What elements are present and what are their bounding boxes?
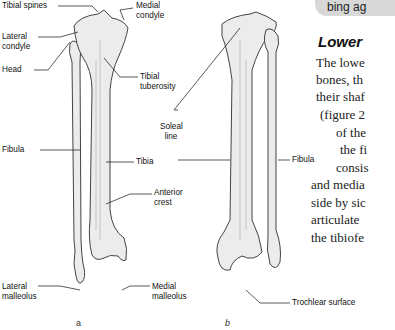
body-line: the fi bbox=[340, 143, 367, 157]
label-tibial-spines: Tibial spines bbox=[2, 1, 47, 11]
body-line: and media bbox=[311, 178, 365, 192]
body-line: of the bbox=[336, 126, 366, 140]
callout-text: bing ag bbox=[327, 0, 366, 14]
label-lateral-condyle: Lateral condyle bbox=[2, 32, 36, 52]
label-fibula-a: Fibula bbox=[2, 145, 24, 155]
callout-box: bing ag bbox=[315, 0, 395, 16]
caption-a: a bbox=[76, 318, 81, 328]
body-line: articulate bbox=[311, 213, 359, 227]
label-medial-condyle: Medial condyle bbox=[136, 1, 180, 21]
body-line: side by sic bbox=[311, 196, 366, 210]
label-head: Head bbox=[2, 65, 22, 75]
label-tibia: Tibia bbox=[136, 157, 153, 167]
label-lateral-malleolus: Lateral malleolus bbox=[2, 282, 42, 302]
body-line: The lowe bbox=[316, 56, 365, 70]
label-medial-malleolus: Medial malleolus bbox=[152, 282, 192, 302]
fibula-b bbox=[264, 29, 280, 268]
caption-b: b bbox=[225, 318, 230, 328]
tibia-a bbox=[74, 10, 128, 261]
section-heading: Lower bbox=[318, 33, 362, 50]
label-soleal-line: Soleal line bbox=[160, 122, 182, 142]
label-tibial-tuberosity: Tibial tuberosity bbox=[140, 72, 184, 92]
body-line: (figure 2 bbox=[320, 108, 365, 122]
body-line: the tibiofe bbox=[311, 231, 364, 245]
label-fibula-b: Fibula bbox=[292, 155, 314, 165]
fibula-a bbox=[69, 41, 84, 283]
label-anterior-crest: Anterior crest bbox=[154, 188, 190, 208]
label-trochlear-surface: Trochlear surface bbox=[292, 298, 355, 308]
body-line: consis bbox=[336, 161, 369, 175]
body-line: their shaf bbox=[316, 90, 365, 104]
body-line: bones, th bbox=[316, 73, 363, 87]
